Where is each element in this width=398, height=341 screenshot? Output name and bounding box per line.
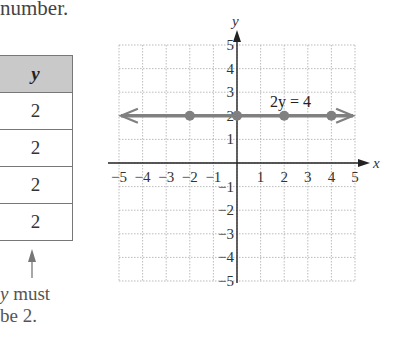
y-axis-arrow-icon bbox=[233, 30, 241, 42]
svg-text:−5: −5 bbox=[218, 273, 234, 289]
data-point bbox=[185, 111, 195, 121]
up-arrow-icon bbox=[28, 249, 36, 278]
data-point bbox=[232, 111, 242, 121]
svg-text:−5: −5 bbox=[111, 169, 127, 185]
svg-text:1: 1 bbox=[227, 131, 235, 147]
svg-text:−3: −3 bbox=[158, 169, 174, 185]
svg-text:−2: −2 bbox=[218, 202, 234, 218]
svg-text:−4: −4 bbox=[135, 169, 151, 185]
svg-text:4: 4 bbox=[328, 169, 336, 185]
svg-text:5: 5 bbox=[227, 37, 235, 53]
data-point bbox=[279, 111, 289, 121]
svg-text:4: 4 bbox=[227, 61, 235, 77]
y-axis-label: y bbox=[230, 13, 239, 29]
svg-text:−2: −2 bbox=[182, 169, 198, 185]
equation-label: 2y = 4 bbox=[270, 93, 311, 111]
x-axis-label: x bbox=[372, 155, 380, 171]
svg-text:1: 1 bbox=[257, 169, 265, 185]
svg-text:5: 5 bbox=[351, 169, 359, 185]
svg-text:2: 2 bbox=[280, 169, 288, 185]
data-point bbox=[326, 111, 336, 121]
svg-text:3: 3 bbox=[304, 169, 312, 185]
x-axis-arrow-icon bbox=[358, 159, 370, 167]
svg-text:−3: −3 bbox=[218, 226, 234, 242]
series-line-y-equals-2 bbox=[121, 109, 353, 123]
svg-text:3: 3 bbox=[227, 84, 235, 100]
svg-text:−4: −4 bbox=[218, 249, 234, 265]
coordinate-plane: x y −5−4−3−2−11234554321−1−2−3−4−5 2y = … bbox=[0, 0, 398, 341]
axes bbox=[108, 30, 370, 283]
svg-text:−1: −1 bbox=[218, 179, 234, 195]
